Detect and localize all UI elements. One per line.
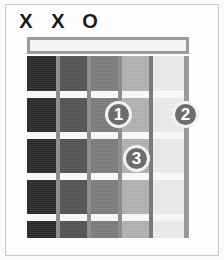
string-lane-3	[89, 56, 120, 238]
string-marker-muted-2: X	[48, 9, 68, 33]
finger-dot-1: 1	[105, 101, 132, 128]
string-marker-muted-1: X	[16, 9, 36, 33]
fret-line-3	[27, 173, 189, 180]
string-markers-row: X X O	[16, 9, 206, 33]
fretboard	[27, 56, 189, 238]
chord-diagram-card: X X O 1 2 3	[0, 0, 224, 260]
guitar-nut	[27, 37, 189, 54]
string-marker-open-3: O	[80, 9, 100, 33]
finger-dot-2: 2	[172, 101, 199, 128]
fret-line-1	[27, 91, 189, 98]
fret-line-4	[27, 214, 189, 221]
string-line-1	[56, 56, 60, 238]
string-line-5	[184, 56, 189, 238]
string-line-4	[149, 56, 153, 238]
string-line-3	[118, 56, 122, 238]
finger-dot-3: 3	[123, 145, 150, 172]
string-line-2	[87, 56, 91, 238]
string-lane-1	[27, 56, 58, 238]
fret-line-2	[27, 132, 189, 139]
string-lane-2	[58, 56, 89, 238]
